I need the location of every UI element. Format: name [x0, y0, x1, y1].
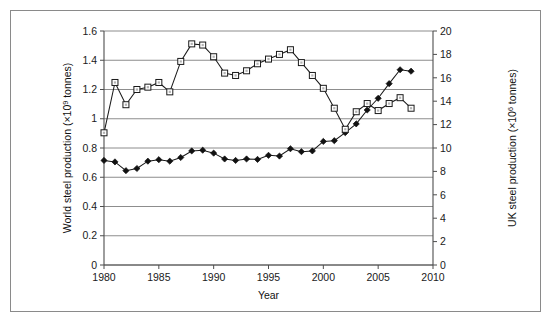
left-axis-tick-label: 0 — [91, 259, 97, 271]
data-point-marker-uk — [123, 102, 129, 108]
data-point-marker-world — [298, 149, 304, 155]
figure-container: 00.20.40.60.811.21.41.602468101214161820… — [0, 0, 553, 320]
right-axis-tick-label: 10 — [440, 142, 452, 154]
right-axis-tick-label: 18 — [440, 48, 452, 60]
left-axis-tick-label: 1.2 — [82, 83, 97, 95]
data-point-marker-uk — [145, 84, 151, 90]
data-point-marker-uk — [244, 68, 250, 74]
data-point-marker-uk — [364, 101, 370, 107]
x-axis-tick-label: 2000 — [312, 271, 336, 283]
right-axis-title: UK steel production (×106 tonnes) — [506, 69, 518, 227]
data-point-marker-uk — [222, 70, 228, 76]
data-point-marker-world — [178, 154, 184, 160]
left-axis-tick-label: 0.4 — [82, 200, 97, 212]
x-axis-tick-label: 1990 — [202, 271, 226, 283]
left-axis-tick-label: 0.6 — [82, 171, 97, 183]
data-point-marker-world — [287, 146, 293, 152]
data-point-marker-uk — [255, 61, 261, 67]
data-point-marker-uk — [211, 54, 217, 60]
data-point-marker-uk — [353, 109, 359, 115]
x-axis-tick-label: 1980 — [92, 271, 116, 283]
data-point-marker-world — [211, 150, 217, 156]
data-point-marker-world — [156, 157, 162, 163]
axis-ticks-group — [100, 31, 437, 269]
left-axis-tick-label: 1 — [91, 112, 97, 124]
data-point-marker-uk — [375, 108, 381, 114]
data-point-marker-uk — [386, 101, 392, 107]
data-point-marker-world — [233, 157, 239, 163]
data-point-marker-world — [167, 158, 173, 164]
data-point-marker-world — [265, 152, 271, 158]
data-point-marker-uk — [298, 60, 304, 66]
left-axis-tick-label: 1.6 — [82, 25, 97, 37]
data-point-marker-uk — [266, 56, 272, 62]
x-axis-tick-label: 2005 — [366, 271, 390, 283]
data-point-marker-world — [101, 157, 107, 163]
right-axis-tick-label: 12 — [440, 118, 452, 130]
data-point-marker-uk — [101, 130, 107, 136]
data-point-marker-uk — [167, 89, 173, 95]
x-axis-tick-label: 2010 — [421, 271, 445, 283]
data-series-group — [101, 41, 414, 174]
right-axis-tick-label: 14 — [440, 95, 452, 107]
data-point-marker-world — [408, 68, 414, 74]
left-axis-tick-label: 0.8 — [82, 142, 97, 154]
x-axis-tick-label: 1995 — [257, 271, 281, 283]
right-axis-tick-label: 0 — [440, 259, 446, 271]
data-point-marker-uk — [189, 41, 195, 47]
data-point-marker-world — [276, 153, 282, 159]
data-point-marker-uk — [178, 58, 184, 64]
data-point-marker-uk — [200, 42, 206, 48]
data-point-marker-world — [145, 158, 151, 164]
left-axis-tick-label: 1.4 — [82, 54, 97, 66]
right-axis-tick-label: 20 — [440, 25, 452, 37]
x-axis-tick-label: 1985 — [147, 271, 171, 283]
data-point-marker-uk — [233, 72, 239, 78]
right-axis-tick-label: 4 — [440, 212, 446, 224]
right-axis-tick-label: 2 — [440, 235, 446, 247]
left-axis-tick-label: 0.2 — [82, 229, 97, 241]
x-axis-title: Year — [258, 289, 280, 301]
data-point-marker-uk — [408, 105, 414, 111]
data-point-marker-world — [189, 148, 195, 154]
steel-production-line-chart: 00.20.40.60.811.21.41.602468101214161820… — [0, 0, 553, 320]
right-axis-tick-label: 16 — [440, 72, 452, 84]
left-axis-title: World steel production (×109 tonnes) — [61, 63, 73, 233]
data-point-marker-uk — [156, 79, 162, 85]
data-point-marker-uk — [320, 85, 326, 91]
right-axis-tick-label: 8 — [440, 165, 446, 177]
data-point-marker-world — [134, 165, 140, 171]
data-point-marker-uk — [331, 105, 337, 111]
data-point-marker-uk — [342, 126, 348, 132]
right-axis-tick-label: 6 — [440, 189, 446, 201]
data-point-marker-uk — [287, 47, 293, 53]
data-point-marker-uk — [112, 79, 118, 85]
data-point-marker-uk — [309, 72, 315, 78]
data-point-marker-uk — [276, 51, 282, 57]
data-point-marker-uk — [134, 87, 140, 93]
gridlines-group — [104, 31, 433, 265]
data-point-marker-world — [243, 156, 249, 162]
data-point-marker-world — [254, 156, 260, 162]
data-point-marker-world — [222, 156, 228, 162]
data-point-marker-uk — [397, 95, 403, 101]
